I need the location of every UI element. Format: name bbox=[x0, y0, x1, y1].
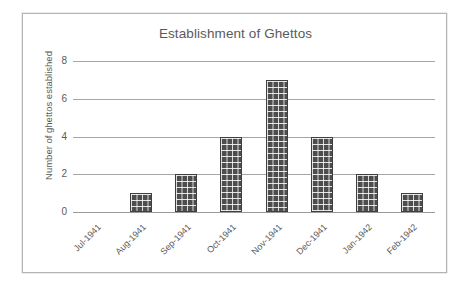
x-tick-label-sep-1941: Sep-1941 bbox=[159, 222, 194, 257]
x-label-slot: Aug-1941 bbox=[118, 214, 163, 269]
x-label-slot: Jul-1941 bbox=[73, 214, 118, 269]
bar[interactable] bbox=[356, 174, 378, 212]
bar[interactable] bbox=[220, 137, 242, 213]
bar[interactable] bbox=[401, 193, 423, 212]
y-tick-label-0: 0 bbox=[61, 207, 67, 217]
x-label-slot: Feb-1942 bbox=[390, 214, 435, 269]
bar[interactable] bbox=[266, 80, 288, 212]
x-label-slot: Nov-1941 bbox=[254, 214, 299, 269]
chart-frame: Establishment of Ghettos Number of ghett… bbox=[22, 13, 447, 273]
bar-slot bbox=[345, 61, 390, 212]
x-tick-label-feb-1942: Feb-1942 bbox=[385, 222, 419, 256]
x-tick-label-oct-1941: Oct-1941 bbox=[205, 222, 238, 255]
chart-title: Establishment of Ghettos bbox=[23, 26, 448, 41]
y-tick-label-4: 4 bbox=[61, 132, 67, 142]
y-tick-label-6: 6 bbox=[61, 94, 67, 104]
bar-slot bbox=[299, 61, 344, 212]
y-axis-title: Number of ghettos established bbox=[43, 36, 54, 196]
y-tick-label-8: 8 bbox=[61, 56, 67, 66]
bar-series bbox=[73, 61, 435, 212]
x-label-slot: Dec-1941 bbox=[299, 214, 344, 269]
x-label-slot: Jan-1942 bbox=[345, 214, 390, 269]
bar-slot bbox=[164, 61, 209, 212]
bar-slot bbox=[73, 61, 118, 212]
bar-slot bbox=[209, 61, 254, 212]
gridline-0 bbox=[73, 212, 435, 213]
x-label-slot: Oct-1941 bbox=[209, 214, 254, 269]
plot-area: 02468 bbox=[73, 61, 435, 212]
x-tick-label-dec-1941: Dec-1941 bbox=[294, 222, 329, 257]
y-tick-label-2: 2 bbox=[61, 169, 67, 179]
bar[interactable] bbox=[311, 137, 333, 213]
bar-slot bbox=[254, 61, 299, 212]
bar-slot bbox=[118, 61, 163, 212]
x-tick-label-aug-1941: Aug-1941 bbox=[113, 222, 148, 257]
x-tick-label-nov-1941: Nov-1941 bbox=[249, 222, 284, 257]
x-label-slot: Sep-1941 bbox=[164, 214, 209, 269]
bar[interactable] bbox=[175, 174, 197, 212]
bar-slot bbox=[390, 61, 435, 212]
bar[interactable] bbox=[130, 193, 152, 212]
x-tick-label-jan-1942: Jan-1942 bbox=[341, 222, 375, 256]
x-axis-tick-labels: Jul-1941Aug-1941Sep-1941Oct-1941Nov-1941… bbox=[73, 214, 435, 269]
x-tick-label-jul-1941: Jul-1941 bbox=[71, 222, 102, 253]
